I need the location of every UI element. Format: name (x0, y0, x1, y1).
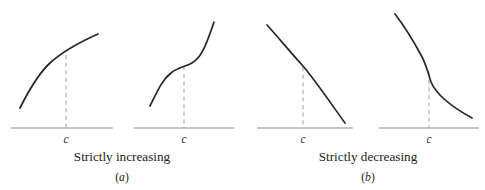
caption-strictly-decreasing: Strictly decreasing (319, 149, 418, 164)
panel-2-curve (150, 22, 214, 106)
panel-3-tick-label-c: c (300, 133, 305, 145)
panel-3-curve (267, 25, 345, 123)
caption-strictly-increasing: Strictly increasing (74, 149, 171, 164)
panel-4-tick-label-c: c (426, 133, 431, 145)
panel-1-curve (20, 34, 98, 108)
panel-label-a-close-paren: ) (125, 171, 129, 184)
panel-4-curve (395, 14, 472, 118)
panel-1-tick-label-c: c (63, 133, 68, 145)
panel-label-b: (b) (361, 171, 375, 184)
panel-2-group: c (134, 22, 234, 145)
panel-label-b-close-paren: ) (371, 171, 375, 184)
panel-4-group: c (379, 14, 479, 145)
mathematical-figure: c c c c Strictly increasing (a) Str (0, 0, 485, 190)
figure-container: c c c c Strictly increasing (a) Str (0, 0, 485, 190)
panel-3-group: c (257, 25, 353, 145)
panel-2-tick-label-c: c (181, 133, 186, 145)
panel-1-group: c (11, 34, 113, 145)
panel-label-a: (a) (115, 171, 129, 184)
